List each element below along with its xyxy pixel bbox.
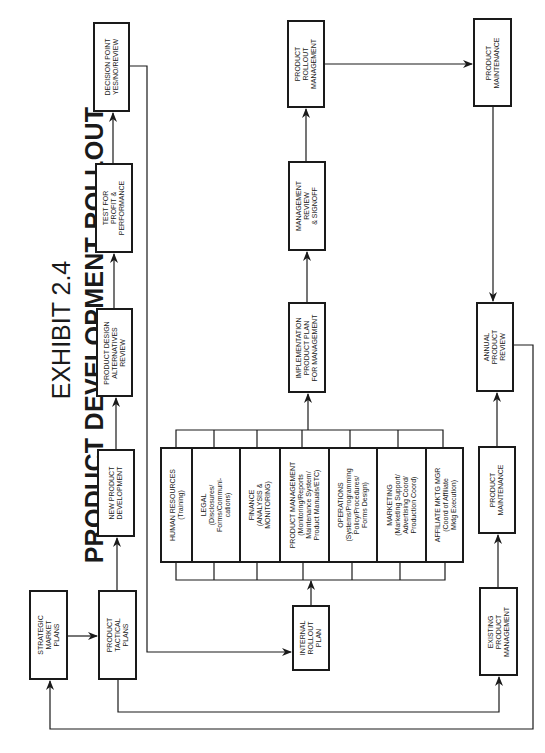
- dept-legal: LEGAL (Disclosures/ Forms/Communi- catio…: [193, 449, 241, 561]
- node-test-profit-performance: TEST FOR PROFIT & PERFORMANCE: [95, 163, 133, 253]
- node-product-design-review: PRODUCT DESIGN ALTERNATIVES REVIEW: [96, 308, 133, 397]
- dept-operations: OPERATIONS (Systems/Programming Policy/P…: [330, 449, 378, 561]
- node-strategic-market-plans: STRATEGIC MARKET PLANS: [29, 590, 68, 680]
- node-annual-product-review: ANNUAL PRODUCT REVIEW: [476, 302, 514, 392]
- dept-product-management: PRODUCT MANAGEMENT (Monitoring/Reports M…: [281, 449, 330, 561]
- node-product-maintenance-bottom: PRODUCT MAINTENANCE: [478, 446, 516, 534]
- node-product-tactical-plans: PRODUCT TACTICAL PLANS: [98, 590, 137, 680]
- node-decision-point: DECISION POINT YES/NO/REVIEW: [93, 22, 130, 112]
- node-new-product-development: NEW PRODUCT DEVELOPMENT: [97, 449, 135, 537]
- dept-human-resources: HUMAN RESOURCES (Training): [162, 449, 193, 561]
- dept-finance: FINANCE (ANALYSIS & MONITORING): [241, 449, 281, 561]
- node-product-maintenance-top: PRODUCT MAINTENANCE: [473, 18, 512, 107]
- node-implementation-plan: IMPLEMENTATION PRODUCT PLAN FOR MANAGEME…: [288, 302, 326, 393]
- exhibit-number: EXHIBIT 2.4: [47, 261, 76, 400]
- dept-marketing: MARKETING (Marketing Support/ Advertisin…: [378, 449, 427, 561]
- node-management-review: MANAGEMENT REVIEW & SIGNOFF: [288, 161, 326, 251]
- node-existing-product-management: EXISTING PRODUCT MANAGEMENT: [479, 587, 518, 676]
- node-product-rollout-management: PRODUCT ROLLOUT MANAGEMENT: [287, 20, 325, 108]
- node-internal-rollout-plan: INTERNAL ROLLOUT PLAN: [292, 605, 330, 671]
- departments-box: HUMAN RESOURCES (Training) LEGAL (Disclo…: [160, 447, 464, 563]
- dept-affiliate-mktg-mgr: AFFILIATE MKTG MGR (Coord of Affiliate M…: [427, 449, 464, 561]
